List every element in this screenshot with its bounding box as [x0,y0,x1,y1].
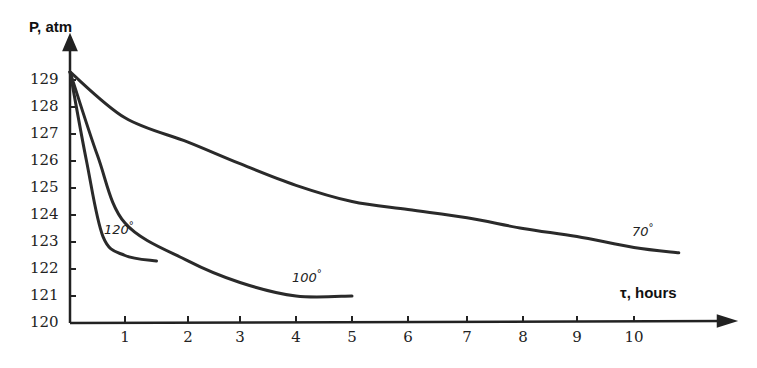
x-tick-label: 10 [622,328,646,346]
curves [70,72,679,297]
x-tick-label: 8 [511,328,535,346]
x-axis-title: τ, hours [620,284,677,301]
x-axis [70,321,725,323]
x-axis-arrow [718,316,734,326]
y-tick-label: 129 [30,70,66,88]
y-tick-label: 128 [30,97,66,115]
curve-100 [70,72,352,297]
y-tick-label: 127 [30,124,66,142]
y-tick-label: 121 [30,286,66,304]
y-tick-label: 126 [30,151,66,169]
x-tick-label: 6 [396,328,420,346]
curve-70 [70,72,679,253]
y-tick-label: 124 [30,205,66,223]
curve-label-70: 70° [632,222,654,239]
y-tick-label: 123 [30,232,66,250]
axes [64,36,734,326]
x-tick-label: 4 [284,328,308,346]
y-tick-label: 125 [30,178,66,196]
x-tick-label: 2 [176,328,200,346]
x-tick-label: 7 [455,328,479,346]
y-tick-label: 120 [30,313,66,331]
x-tick-label: 1 [113,328,137,346]
y-axis-title: P, atm [29,18,72,35]
pressure-time-chart [0,0,757,368]
y-axis-arrow [64,36,76,50]
curve-label-100: 100° [292,268,322,285]
x-tick-label: 5 [340,328,364,346]
curve-label-120: 120° [104,220,134,237]
x-tick-label: 9 [565,328,589,346]
x-tick-label: 3 [228,328,252,346]
y-tick-label: 122 [30,259,66,277]
